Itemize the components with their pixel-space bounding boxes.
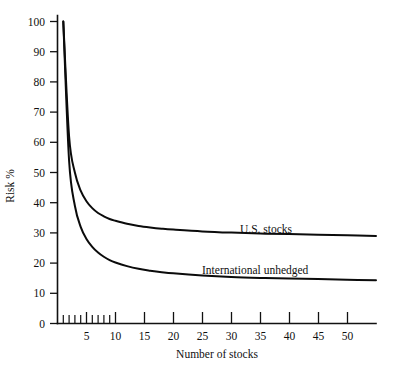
y-tick-label-70: 70 bbox=[34, 106, 46, 118]
series-label-us-stocks: U.S. stocks bbox=[240, 223, 293, 235]
x-tick-label-25: 25 bbox=[197, 330, 209, 342]
chart-background bbox=[0, 0, 419, 369]
y-tick-label-30: 30 bbox=[34, 227, 46, 239]
y-tick-label-20: 20 bbox=[34, 257, 46, 269]
y-tick-label-90: 90 bbox=[34, 46, 46, 58]
x-tick-label-45: 45 bbox=[313, 330, 325, 342]
x-tick-label-5: 5 bbox=[84, 330, 90, 342]
y-tick-label-60: 60 bbox=[34, 136, 46, 148]
y-axis-title: Risk % bbox=[4, 169, 16, 203]
y-tick-label-40: 40 bbox=[34, 197, 46, 209]
x-tick-label-10: 10 bbox=[110, 330, 122, 342]
y-tick-label-10: 10 bbox=[34, 287, 46, 299]
series-label-international-unhedged: International unhedged bbox=[202, 264, 309, 277]
y-tick-label-50: 50 bbox=[34, 167, 46, 179]
x-tick-label-30: 30 bbox=[226, 330, 238, 342]
y-tick-label-0: 0 bbox=[39, 318, 45, 330]
x-tick-label-35: 35 bbox=[255, 330, 267, 342]
x-axis-title: Number of stocks bbox=[176, 348, 258, 360]
x-tick-label-50: 50 bbox=[342, 330, 354, 342]
x-tick-label-20: 20 bbox=[168, 330, 180, 342]
x-tick-label-15: 15 bbox=[139, 330, 151, 342]
chart-svg: 0 10 20 30 40 50 60 70 80 90 100 Risk % bbox=[0, 0, 419, 369]
y-tick-label-100: 100 bbox=[28, 16, 46, 28]
y-tick-label-80: 80 bbox=[34, 76, 46, 88]
risk-diversification-chart: 0 10 20 30 40 50 60 70 80 90 100 Risk % bbox=[0, 0, 419, 369]
x-tick-label-40: 40 bbox=[284, 330, 296, 342]
